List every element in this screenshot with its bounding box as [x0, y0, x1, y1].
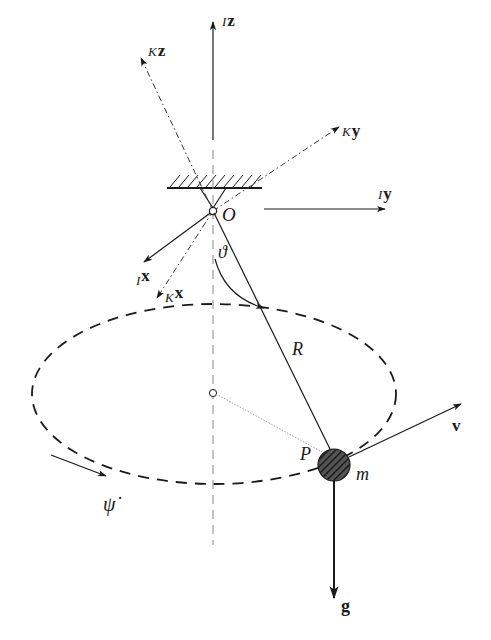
Ky-axis-arrow [213, 127, 339, 211]
Iy-label: Iy [377, 184, 392, 203]
psi-dot-label: ψ̇ [103, 493, 121, 516]
velocity-vector [349, 404, 461, 457]
radius-label: R [291, 339, 303, 359]
Ky-label: Ky [341, 121, 361, 140]
Ix-axis-arrow [144, 211, 213, 262]
circle-center [209, 389, 216, 396]
theta-label: ϑ [218, 242, 228, 262]
ceiling-support [167, 175, 262, 208]
pendulum-rod [214, 213, 330, 449]
Kz-label: Kz [147, 41, 166, 60]
psi-rotation-arrow [51, 455, 106, 476]
pendulum-diagram: Iz Kz Ky Iy Ix Kx O ϑ R v g P m [0, 0, 491, 640]
gravity-label: g [341, 596, 350, 616]
point-label: P [299, 444, 311, 464]
pivot-point [209, 207, 216, 214]
Kx-axis-arrow [157, 211, 213, 298]
Iz-label: Iz [221, 11, 235, 30]
Ix-label: Ix [135, 266, 150, 288]
Kx-label: Kx [164, 283, 184, 305]
velocity-label: v [452, 416, 461, 435]
origin-label: O [222, 204, 236, 225]
pendulum-mass [318, 449, 350, 481]
mass-label: m [356, 464, 369, 484]
